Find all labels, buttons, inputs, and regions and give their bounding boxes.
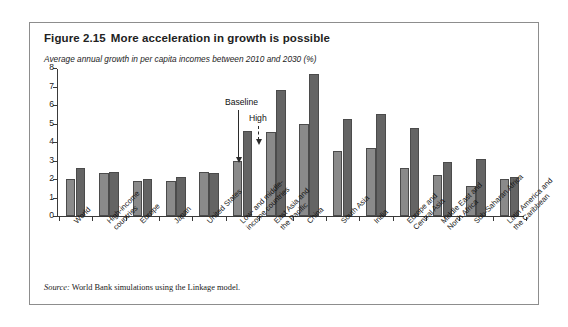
y-tick: 6 bbox=[57, 105, 58, 106]
x-axis-labels: WorldHigh-income countriesEuropeJapanUni… bbox=[57, 219, 524, 281]
bar-baseline bbox=[400, 168, 410, 216]
y-tick-label: 6 bbox=[49, 99, 54, 110]
y-tick: 7 bbox=[57, 87, 58, 88]
y-tick: 0 bbox=[57, 216, 58, 217]
y-tick-label: 5 bbox=[49, 118, 54, 129]
figure-panel: Figure 2.15More acceleration in growth i… bbox=[29, 22, 539, 305]
annotation-baseline-arrow-icon bbox=[238, 110, 239, 158]
source-note: Source: World Bank simulations using the… bbox=[44, 283, 240, 292]
annotation-high-label: High bbox=[249, 113, 267, 123]
bar-baseline bbox=[99, 173, 109, 216]
y-tick: 4 bbox=[57, 142, 58, 143]
bar-baseline bbox=[333, 151, 343, 216]
y-tick-label: 8 bbox=[49, 62, 54, 73]
source-text: World Bank simulations using the Linkage… bbox=[70, 283, 240, 292]
figure-title-text: More acceleration in growth is possible bbox=[111, 32, 330, 44]
y-tick: 1 bbox=[57, 198, 58, 199]
page-title: Figure 2.15More acceleration in growth i… bbox=[44, 32, 330, 44]
bar-high bbox=[243, 131, 253, 216]
bar-high bbox=[343, 119, 353, 216]
y-tick: 8 bbox=[57, 68, 58, 69]
source-label: Source: bbox=[44, 283, 70, 292]
y-tick-label: 0 bbox=[49, 210, 54, 221]
bar-high bbox=[376, 114, 386, 216]
y-tick-label: 2 bbox=[49, 173, 54, 184]
y-tick: 3 bbox=[57, 161, 58, 162]
y-tick: 2 bbox=[57, 179, 58, 180]
y-axis-line bbox=[57, 69, 58, 217]
bar-baseline bbox=[166, 181, 176, 216]
y-tick-label: 7 bbox=[49, 81, 54, 92]
chart-plot-area: 012345678 Baseline High bbox=[57, 69, 524, 217]
bar-high bbox=[410, 128, 420, 216]
y-tick: 5 bbox=[57, 124, 58, 125]
bar-baseline bbox=[366, 148, 376, 216]
bar-baseline bbox=[199, 172, 209, 216]
annotation-baseline-label: Baseline bbox=[225, 97, 258, 107]
y-tick-label: 3 bbox=[49, 155, 54, 166]
figure-subtitle: Average annual growth in per capita inco… bbox=[44, 54, 316, 64]
bar-baseline bbox=[66, 179, 76, 216]
annotation-high-arrow-icon bbox=[258, 126, 259, 140]
figure-number: Figure 2.15 bbox=[44, 32, 106, 44]
y-tick-label: 1 bbox=[49, 192, 54, 203]
y-tick-label: 4 bbox=[49, 136, 54, 147]
